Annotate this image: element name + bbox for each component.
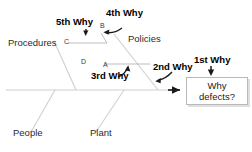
point-label-d: D: [81, 58, 86, 65]
point-label-b: B: [100, 22, 105, 29]
annotation-1st-why: 1st Why: [194, 55, 230, 65]
annotation-2nd-why: 2nd Why: [153, 62, 193, 72]
effect-box-line-1: Why: [208, 80, 227, 91]
arrow-5th-why: [83, 29, 88, 36]
arrow-4th-why: [103, 28, 122, 35]
annotation-5th-why: 5th Why: [56, 17, 93, 27]
effect-box[interactable]: Why defects?: [186, 77, 248, 105]
bone-label-plant: Plant: [90, 128, 112, 138]
annotation-3rd-why: 3rd Why: [91, 71, 128, 81]
spine-arrowhead: [168, 86, 180, 94]
bone-label-people: People: [13, 128, 43, 138]
arrow-1st-why: [208, 66, 214, 76]
connector-b: [101, 33, 107, 43]
annotation-4th-why: 4th Why: [106, 8, 143, 18]
bone-label-policies: Policies: [128, 34, 161, 44]
effect-box-line-2: defects?: [199, 91, 235, 102]
bone-procedures: [54, 41, 76, 90]
bone-plant: [96, 90, 124, 132]
arrow-2nd-why: [155, 72, 172, 83]
bone-label-procedures: Procedures: [8, 38, 57, 48]
point-label-a: A: [103, 61, 108, 68]
point-label-c: C: [64, 38, 69, 45]
fishbone-diagram: Procedures Policies People Plant A B C D…: [0, 0, 252, 152]
bone-people: [31, 90, 55, 132]
